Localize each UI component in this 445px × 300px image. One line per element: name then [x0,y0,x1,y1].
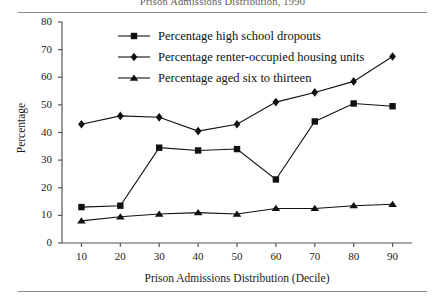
chart-figure: Prison Admissions Distribution, 1990 Per… [0,0,445,300]
legend-label: Percentage renter-occupied housing units [158,50,364,65]
data-series [78,100,396,210]
data-point-marker [388,201,397,207]
data-point-marker [350,77,357,86]
x-tick-label: 40 [185,250,211,262]
x-tick-label: 30 [146,250,172,262]
x-tick-label: 20 [107,250,133,262]
data-point-marker [195,147,201,153]
legend-label: Percentage aged six to thirteen [158,71,311,86]
x-tick-label: 50 [224,250,250,262]
y-tick-label: 20 [26,181,52,193]
data-point-marker [234,146,240,152]
legend-marker-square-icon [117,29,151,43]
data-point-marker [194,209,203,215]
y-tick-label: 80 [26,15,52,27]
data-point-marker [78,120,85,129]
data-series [77,201,397,224]
data-point-marker [195,127,202,136]
data-point-marker [156,113,163,122]
data-point-marker [311,88,318,97]
data-point-marker [234,120,241,129]
data-point-marker [350,100,356,106]
y-tick-label: 40 [26,126,52,138]
legend-item[interactable]: Percentage aged six to thirteen [117,69,311,87]
data-point-marker [389,52,396,61]
x-tick-label: 10 [68,250,94,262]
data-point-marker [389,103,395,109]
data-point-marker [78,204,84,210]
data-point-marker [273,98,280,107]
data-point-marker [117,112,124,121]
data-point-marker [312,118,318,124]
x-tick-label: 60 [263,250,289,262]
y-tick-label: 60 [26,70,52,82]
legend-label: Percentage high school dropouts [158,29,321,44]
y-tick-label: 10 [26,208,52,220]
plot-area [0,0,445,300]
legend-item[interactable]: Percentage high school dropouts [117,27,321,45]
y-tick-label: 30 [26,153,52,165]
x-tick-label: 80 [341,250,367,262]
data-point-marker [273,176,279,182]
y-tick-label: 0 [26,236,52,248]
legend-marker-triangle-icon [117,71,151,85]
x-tick-label: 90 [380,250,406,262]
y-tick-label: 70 [26,43,52,55]
data-point-marker [117,203,123,209]
x-tick-label: 70 [302,250,328,262]
legend-marker-diamond-icon [117,50,151,64]
y-tick-label: 50 [26,98,52,110]
legend-item[interactable]: Percentage renter-occupied housing units [117,48,364,66]
data-point-marker [156,144,162,150]
